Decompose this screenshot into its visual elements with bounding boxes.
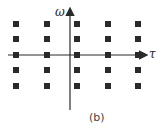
lattice-point [105, 21, 111, 27]
lattice-point [135, 83, 141, 89]
lattice-point [135, 52, 141, 58]
lattice-point [105, 52, 111, 58]
lattice-point [105, 36, 111, 42]
lattice-point [13, 21, 19, 27]
lattice-point [44, 67, 50, 73]
lattice-point [135, 21, 141, 27]
lattice-point [135, 36, 141, 42]
lattice-point [105, 67, 111, 73]
lattice-point [44, 83, 50, 89]
lattice-point [74, 36, 80, 42]
tau-axis-label: τ [149, 47, 156, 61]
lattice-point [74, 52, 80, 58]
figure-caption: (b) [89, 111, 105, 124]
lattice-point [44, 52, 50, 58]
lattice-point [74, 83, 80, 89]
lattice-point [44, 21, 50, 27]
lattice-point [13, 36, 19, 42]
lattice-point [105, 83, 111, 89]
lattice-point [135, 67, 141, 73]
lattice-point [13, 52, 19, 58]
lattice-point [74, 67, 80, 73]
lattice-point [13, 67, 19, 73]
lattice-point [13, 83, 19, 89]
lattice-diagram [0, 0, 162, 132]
lattice-point [74, 21, 80, 27]
omega-axis-label: ω [55, 5, 65, 19]
lattice-point [44, 36, 50, 42]
